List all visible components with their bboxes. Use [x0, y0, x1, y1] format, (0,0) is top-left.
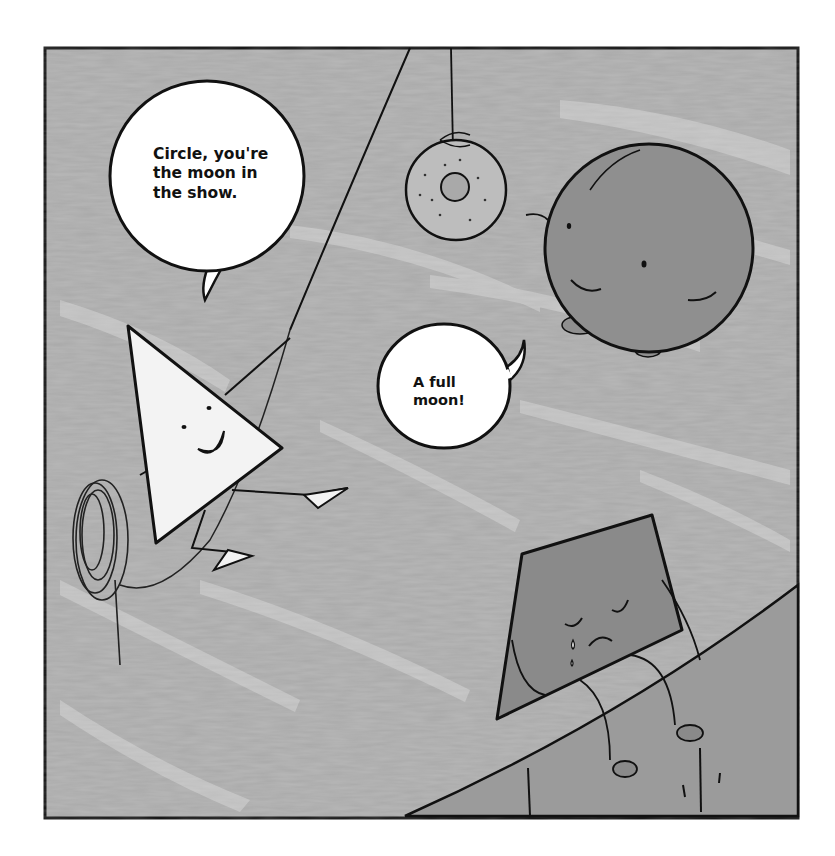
speech-line: Circle, you're	[153, 145, 293, 164]
speech-text-circle: A full moon!	[413, 373, 493, 409]
speech-text-triangle: Circle, you're the moon in the show.	[153, 145, 293, 203]
speech-line: A full	[413, 373, 493, 391]
illustration-panel	[0, 0, 835, 856]
speech-line: the show.	[153, 184, 293, 203]
speech-line: moon!	[413, 391, 493, 409]
ledge-line	[700, 748, 701, 812]
speech-line: the moon in	[153, 164, 293, 183]
